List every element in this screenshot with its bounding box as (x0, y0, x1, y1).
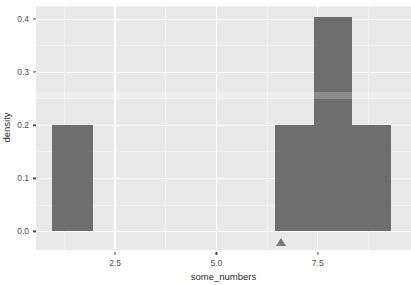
chart-canvas: 0.00.10.20.30.4 2.55.07.5 some_numbers d… (0, 0, 411, 285)
y-tick-mark (33, 72, 36, 73)
gridline-v-major (216, 6, 217, 250)
y-tick-mark (33, 178, 36, 179)
gridline-v-minor (165, 6, 166, 250)
faint-overlay-band (36, 2, 411, 7)
y-tick-label: 0.3 (2, 67, 29, 77)
y-axis-title: density (1, 108, 12, 148)
x-tick-label: 2.5 (109, 258, 121, 268)
x-tick-label: 7.5 (312, 258, 324, 268)
y-tick-mark (33, 125, 36, 126)
gridline-v-major (114, 6, 115, 250)
x-tick-label: 5.0 (210, 258, 222, 268)
gridline-v-minor (267, 6, 268, 250)
gridline-h-minor (36, 45, 411, 46)
y-tick-label: 0.0 (2, 226, 29, 236)
x-tick-mark (216, 252, 217, 255)
y-tick-mark (33, 231, 36, 232)
triangle-marker-icon (276, 238, 286, 246)
gridline-h-major (36, 72, 411, 73)
histogram-bar (352, 125, 391, 231)
histogram-bar (52, 125, 93, 231)
x-axis-title: some_numbers (191, 271, 256, 282)
x-tick-mark (317, 252, 318, 255)
histogram-bar (314, 17, 353, 232)
gridline-h-major (36, 19, 411, 20)
histogram-bar (275, 125, 314, 231)
x-tick-mark (114, 252, 115, 255)
y-tick-label: 0.1 (2, 173, 29, 183)
y-tick-label: 0.4 (2, 14, 29, 24)
faint-overlay-band (36, 92, 411, 99)
y-tick-mark (33, 19, 36, 20)
